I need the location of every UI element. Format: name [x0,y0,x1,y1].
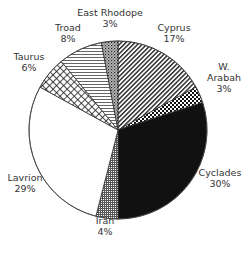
slice-label: Taurus6% [14,51,45,73]
slice-percent: 3% [77,18,143,29]
slice-percent: 29% [7,183,42,194]
slice-percent: 3% [207,83,241,94]
slice-name: Cyprus [157,22,190,33]
slice-percent: 17% [157,33,190,44]
slice-label: Cyprus17% [157,22,190,44]
slice-name: W. [207,61,241,72]
slice-percent: 30% [199,178,242,189]
slice-label: Lavrion29% [7,172,42,194]
pie-chart [0,0,252,259]
slice-name: Taurus [14,51,45,62]
slice-label: Iran4% [96,215,115,237]
pie-slices [29,41,207,219]
slice-name: Cyclades [199,167,242,178]
slice-percent: 4% [96,226,115,237]
slice-percent: 6% [14,62,45,73]
slice-label: W.Arabah3% [207,61,241,94]
slice-name: Arabah [207,72,241,83]
slice-name: Lavrion [7,172,42,183]
slice-name: Iran [96,215,115,226]
slice-label: East Rhodope3% [77,7,143,29]
slice-percent: 8% [55,33,81,44]
slice-label: Cyclades30% [199,167,242,189]
slice-name: East Rhodope [77,7,143,18]
